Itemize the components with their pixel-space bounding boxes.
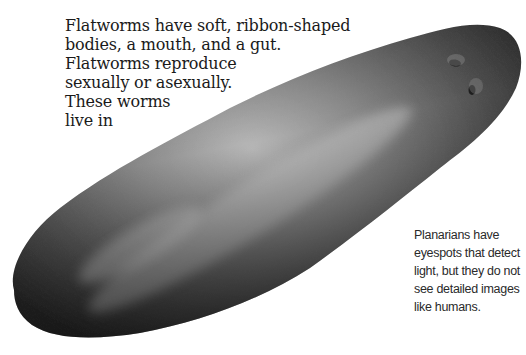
planarian-caption: Planarians have eyespots that detect lig… [414, 226, 526, 316]
flatworm-description-text: Flatworms have soft, ribbon-shaped bodie… [65, 16, 365, 130]
caption-line: like humans. [414, 298, 526, 316]
description-line: live in [65, 111, 365, 130]
description-line: sexually or asexually. [65, 73, 365, 92]
description-line: Flatworms have soft, ribbon-shaped [65, 16, 365, 35]
caption-line: Planarians have [414, 226, 526, 244]
caption-line: eyespots that detect [414, 244, 526, 262]
description-line: bodies, a mouth, and a gut. [65, 35, 365, 54]
description-line: Flatworms reproduce [65, 54, 365, 73]
caption-line: light, but they do not [414, 262, 526, 280]
caption-line: see detailed images [414, 280, 526, 298]
description-line: These worms [65, 92, 365, 111]
